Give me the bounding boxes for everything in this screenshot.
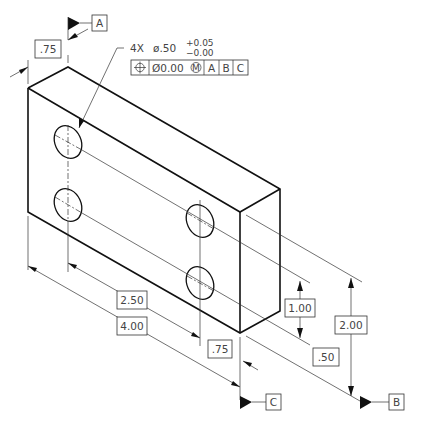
svg-text:.75: .75	[40, 43, 57, 55]
hole-tol-minus: −0.00	[186, 48, 214, 58]
dim-length: 4.00	[117, 317, 147, 335]
datum-c-label: C	[270, 396, 277, 408]
dim-hole-edge-x: .75	[208, 340, 232, 358]
dim-hole-x: 2.50	[117, 291, 147, 309]
dim-thickness: .75	[35, 40, 61, 58]
fcf-tolerance: Ø0.00	[152, 62, 184, 74]
dim-hole-edge-y: .50	[313, 348, 339, 366]
fcf-datum-3: C	[237, 62, 244, 74]
holes	[49, 121, 219, 304]
svg-text:2.00: 2.00	[339, 319, 362, 331]
drawing-canvas: A C B 4X ø.50 +0.05 −0.00 Ø0.00 M	[0, 0, 421, 426]
dim-hole-spacing-y: 1.00	[285, 299, 315, 317]
svg-text:.50: .50	[318, 351, 335, 363]
datum-b: B	[360, 394, 404, 410]
fcf-modifier: M	[192, 63, 200, 73]
fcf-datum-1: A	[208, 62, 216, 74]
datum-c: C	[240, 394, 281, 410]
extension-lines	[28, 55, 362, 401]
svg-text:1.00: 1.00	[288, 302, 311, 314]
hole-tol-plus: +0.05	[186, 38, 214, 48]
hole-callout: 4X ø.50 +0.05 −0.00	[130, 38, 214, 58]
hole-diameter: ø.50	[153, 42, 176, 54]
datum-b-label: B	[393, 396, 400, 408]
fcf-datum-2: B	[222, 62, 229, 74]
hole-callout-leader	[79, 48, 124, 128]
block-body	[28, 67, 280, 333]
hole-count: 4X	[130, 42, 144, 54]
feature-control-frame: Ø0.00 M A B C	[131, 60, 248, 75]
datum-a-label: A	[96, 17, 104, 29]
svg-text:4.00: 4.00	[120, 320, 143, 332]
svg-text:2.50: 2.50	[120, 294, 143, 306]
dim-height: 2.00	[335, 316, 367, 334]
svg-text:.75: .75	[212, 343, 229, 355]
